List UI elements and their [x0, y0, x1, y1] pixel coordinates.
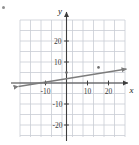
x-tick-label-minus-10: -10	[41, 87, 51, 96]
graph-figure: 20 10 -10 -20 -10 10 20 y x	[0, 0, 139, 145]
y-tick-label-10: 10	[54, 58, 62, 67]
x-axis-label: x	[129, 85, 134, 95]
y-tick-label-20: 20	[54, 37, 62, 46]
grid-lines-vertical	[20, 20, 125, 137]
y-tick-label-minus-10: -10	[53, 100, 63, 109]
coordinate-plane: 20 10 -10 -20 -10 10 20 y x	[0, 0, 139, 145]
x-tick-label-20: 20	[105, 87, 113, 96]
x-tick-label-10: 10	[84, 87, 92, 96]
y-tick-label-minus-20: -20	[53, 121, 63, 130]
y-axis-label: y	[57, 6, 62, 16]
